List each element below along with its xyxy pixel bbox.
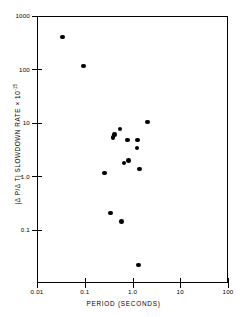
figure-canvas: 1000100101.00.10.010.11.010100 PERIOD (S… [0,0,247,317]
x-tick-label: 0.1 [80,288,89,295]
y-tick-mark-outer [32,230,37,231]
y-tick-mark [37,123,42,124]
y-axis-title-exponent: -15 [13,84,18,91]
x-tick-label: 0.01 [31,288,44,295]
data-point [137,167,142,172]
y-tick-mark [37,16,42,17]
y-tick-mark-outer [32,123,37,124]
data-point [135,146,140,151]
y-tick-label: 10 [23,119,30,126]
y-axis-title-text: |Δ P/Δ T| SLOWDOWN RATE × 10 [14,91,21,205]
data-point [108,211,113,216]
data-point [111,135,116,140]
y-tick-mark [37,230,42,231]
y-tick-mark-outer [32,16,37,17]
x-axis-title: PERIOD (SECONDS) [0,300,247,307]
data-point [122,161,127,166]
y-tick-mark-outer [32,69,37,70]
y-tick-label: 0.1 [21,226,30,233]
scatter-series [38,17,227,282]
y-tick-mark [37,176,42,177]
x-tick-label: 1.0 [128,288,137,295]
x-tick-label: 100 [223,288,234,295]
data-point [102,171,107,176]
data-point [135,138,140,143]
data-point [60,35,65,40]
data-point [136,263,141,268]
data-point [81,64,86,69]
y-tick-mark-outer [32,176,37,177]
data-point [119,219,124,224]
y-tick-label: 1000 [15,12,30,19]
y-tick-mark [37,69,42,70]
data-point [126,158,131,163]
plot-area [37,16,228,283]
y-tick-label: 1.0 [21,173,30,180]
data-point [118,127,123,132]
data-point [125,138,130,143]
x-tick-label: 10 [177,288,184,295]
data-point [145,120,150,125]
y-axis-title: |Δ P/Δ T| SLOWDOWN RATE × 10-15 [13,69,21,219]
